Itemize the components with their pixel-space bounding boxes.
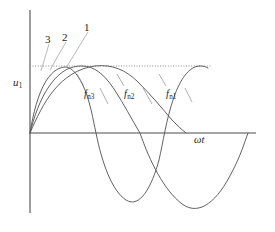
callout-leader-3 <box>41 44 49 71</box>
y-axis-label-main: u <box>13 76 19 88</box>
label-leader-fn2 <box>117 74 124 86</box>
plot-canvas <box>0 0 275 232</box>
callout-leader-2 <box>50 42 66 70</box>
callout-label-2: 2 <box>62 32 68 43</box>
figure-container: u1 ωt fn3 fn2 fn1 1 2 3 <box>0 0 275 232</box>
callout-leader-1 <box>66 32 88 68</box>
curve-fn2 <box>30 66 248 208</box>
callout-label-3: 3 <box>45 34 51 45</box>
curve-label-fn2: fn2 <box>124 89 134 101</box>
curve-fn1 <box>30 66 186 133</box>
label-leader-fn1-lower <box>185 88 192 102</box>
label-leader-fn3-lower <box>100 88 108 104</box>
callout-label-1: 1 <box>84 22 90 33</box>
y-axis-label: u1 <box>13 77 22 90</box>
label-leader-fn3 <box>77 74 84 86</box>
label-leader-fn1 <box>159 74 166 86</box>
x-axis-label-t: t <box>201 134 204 145</box>
curve-label-fn3-subscript: n3 <box>87 93 94 101</box>
curve-label-fn1-subscript: n1 <box>169 93 176 101</box>
x-axis-label: ωt <box>194 135 204 146</box>
curve-label-fn1: fn1 <box>166 89 176 101</box>
y-axis-label-subscript: 1 <box>19 82 23 90</box>
curve-label-fn3: fn3 <box>84 89 94 101</box>
curve-label-fn2-subscript: n2 <box>127 93 134 101</box>
